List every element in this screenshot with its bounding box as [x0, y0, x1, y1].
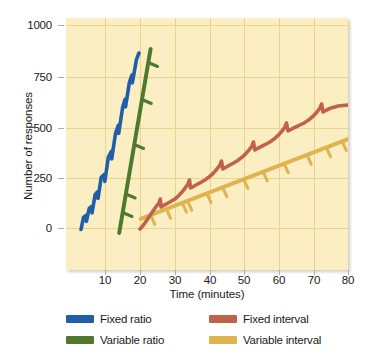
- x-tick-label-40: 40: [204, 274, 216, 286]
- legend-label-variable-interval: Variable interval: [243, 334, 321, 346]
- legend-item-fixed-interval[interactable]: Fixed interval: [209, 308, 348, 329]
- x-tick-label-70: 70: [308, 274, 320, 286]
- legend-label-variable-ratio: Variable ratio: [100, 334, 164, 346]
- x-tick-label-10: 10: [99, 274, 111, 286]
- legend-item-variable-ratio[interactable]: Variable ratio: [66, 329, 205, 350]
- x-tick-label-60: 60: [273, 274, 285, 286]
- legend-label-fixed-ratio: Fixed ratio: [100, 313, 152, 325]
- x-axis-title: Time (minutes): [66, 288, 348, 300]
- x-axis-ticks: 10 20 30 40 50 60 70 80: [0, 0, 367, 357]
- legend-label-fixed-interval: Fixed interval: [243, 313, 309, 325]
- legend-swatch-icon-variable-ratio: [66, 336, 94, 344]
- legend-item-fixed-ratio[interactable]: Fixed ratio: [66, 308, 205, 329]
- x-tick-label-30: 30: [169, 274, 181, 286]
- chart-legend: Fixed ratio Fixed interval Variable rati…: [66, 308, 348, 350]
- cumulative-response-chart: Number of responses 1000 750 500 250 0: [0, 0, 367, 357]
- legend-swatch-icon-variable-interval: [209, 336, 237, 344]
- x-tick-label-80: 80: [342, 274, 354, 286]
- x-tick-label-20: 20: [134, 274, 146, 286]
- legend-swatch-icon-fixed-interval: [209, 315, 237, 323]
- legend-swatch-icon-fixed-ratio: [66, 315, 94, 323]
- x-tick-label-50: 50: [238, 274, 250, 286]
- legend-item-variable-interval[interactable]: Variable interval: [209, 329, 348, 350]
